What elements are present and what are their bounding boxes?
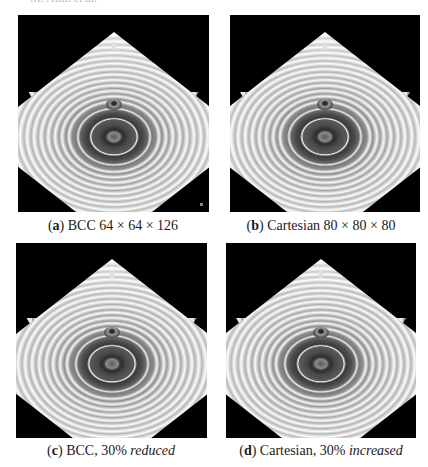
caption-d-label: d xyxy=(244,443,252,458)
caption-c: (c) BCC, 30% reduced xyxy=(0,443,222,459)
figure-panel-d xyxy=(226,243,416,438)
caption-d-text: Cartesian, 30% xyxy=(260,443,349,458)
render-surface xyxy=(18,32,209,212)
render-top-spike xyxy=(110,270,114,278)
figure-panel-a xyxy=(18,15,209,212)
caption-b-label: b xyxy=(251,218,259,233)
caption-a: (a) BCC 64 × 64 × 126 xyxy=(0,218,226,234)
figure-panel-b xyxy=(230,15,420,212)
render-surface xyxy=(230,32,420,212)
caption-c-text: BCC, 30% xyxy=(66,443,130,458)
render-center-nub xyxy=(106,99,122,110)
render-top-spike xyxy=(323,42,327,50)
render-top-spike xyxy=(112,42,116,50)
figure-panel-c xyxy=(16,243,207,438)
render-top-spike xyxy=(319,270,323,278)
caption-d-emph: increased xyxy=(349,443,403,458)
caption-d: (d) Cartesian, 30% increased xyxy=(214,443,428,459)
render-surface xyxy=(226,259,416,438)
caption-c-emph: reduced xyxy=(130,443,175,458)
render-surface xyxy=(16,259,207,438)
render-marker-dot xyxy=(200,203,203,206)
render-center-nub xyxy=(313,327,329,338)
render-center-nub xyxy=(317,99,333,110)
caption-b: (b) Cartesian 80 × 80 × 80 xyxy=(214,218,428,234)
caption-a-text: BCC 64 × 64 × 126 xyxy=(68,218,178,233)
caption-c-label: c xyxy=(52,443,58,458)
running-header: M. Alim et al. xyxy=(30,0,97,6)
render-center-nub xyxy=(104,327,120,338)
caption-a-label: a xyxy=(53,218,60,233)
caption-b-text: Cartesian 80 × 80 × 80 xyxy=(267,218,395,233)
